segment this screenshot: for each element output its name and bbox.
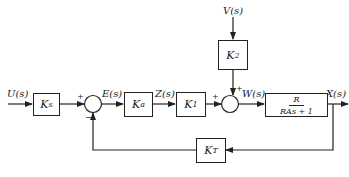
block-ka: Ka	[124, 92, 153, 117]
plant-denominator: RAs + 1	[280, 106, 313, 116]
sum1-plus-sign: +	[77, 93, 84, 101]
sum1-minus-sign: −	[85, 114, 92, 122]
plant-numerator: R	[289, 95, 303, 106]
block-k2-sub: 2	[235, 51, 240, 60]
block-k1-symbol: K	[184, 98, 192, 111]
block-ka-sub: a	[140, 100, 145, 109]
summing-junction-1	[85, 96, 102, 113]
block-ks-sub: s	[49, 100, 53, 109]
signal-label-x: X(s)	[326, 89, 346, 99]
signal-label-u: U(s)	[7, 89, 28, 99]
block-kt-sub: T	[212, 146, 217, 155]
sum2-plus-left-sign: +	[212, 93, 219, 101]
block-kt-symbol: K	[204, 144, 212, 157]
signal-label-v: V(s)	[223, 6, 243, 16]
block-k1: K1	[176, 92, 206, 117]
block-ka-symbol: K	[132, 98, 140, 111]
signal-label-w: W(s)	[242, 89, 265, 99]
block-k1-sub: 1	[193, 100, 198, 109]
signal-label-z: Z(s)	[155, 89, 175, 99]
summing-junction-2	[222, 96, 239, 113]
block-k2-symbol: K	[226, 49, 234, 62]
block-ks-symbol: K	[40, 98, 48, 111]
feedback-arrow-out	[93, 113, 196, 150]
block-kt: KT	[196, 138, 226, 163]
signal-label-e: E(s)	[102, 89, 122, 99]
sum2-plus-top-sign: +	[236, 85, 243, 93]
block-ks: Ks	[33, 93, 60, 116]
block-plant: R RAs + 1	[265, 93, 328, 117]
plant-transfer-function: R RAs + 1	[280, 95, 313, 116]
block-k2: K2	[218, 40, 248, 70]
